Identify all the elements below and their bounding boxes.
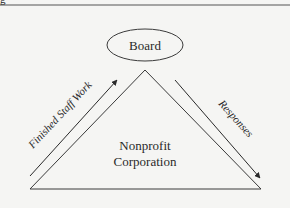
partial-caption-glyph: g bbox=[0, 0, 6, 5]
corporation-triangle bbox=[30, 70, 261, 189]
corporation-label-line2: Corporation bbox=[114, 154, 177, 169]
finished-staff-work-label: Finished Staff Work bbox=[25, 78, 95, 151]
board-label: Board bbox=[129, 38, 161, 53]
responses-label: Responses bbox=[216, 97, 256, 140]
diagram-canvas: g Board Nonprofit Corporation Finished S… bbox=[0, 0, 290, 208]
corporation-label-line1: Nonprofit bbox=[119, 138, 171, 153]
board-node: Board bbox=[107, 29, 183, 61]
